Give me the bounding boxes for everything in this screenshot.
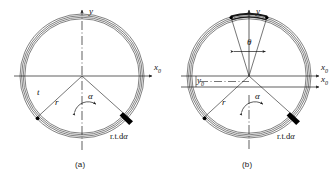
alpha-arc-b <box>242 102 264 113</box>
element-label-a-alpha: α <box>123 131 127 141</box>
radius-label-a: r <box>55 97 59 107</box>
y-axis-label-b: y <box>256 6 260 16</box>
theta-label-b: θ <box>247 37 251 47</box>
thickness-label-a: t <box>37 87 40 97</box>
x-axis-upper-label-b: x0 <box>321 62 328 74</box>
y-axis-label-a: y <box>89 6 93 16</box>
y-offset-label-b-sub: 0 <box>201 81 204 87</box>
alpha-arc-a <box>75 102 97 113</box>
theta-line-right-b <box>249 17 267 76</box>
x-axis-upper-label-b-sub: 0 <box>325 68 328 74</box>
caption-b: (b) <box>242 160 252 169</box>
x-axis-label-a-sub: 0 <box>158 68 161 74</box>
panel-a <box>14 10 152 150</box>
element-label-b-alpha: α <box>290 131 294 141</box>
element-label-b: r.t.dα <box>277 131 295 141</box>
node-marker-b-left <box>203 116 207 120</box>
element-label-b-text: r.t.d <box>277 131 290 141</box>
x-axis-lower-label-b: x0 <box>321 74 328 86</box>
alpha-label-a: α <box>88 91 93 101</box>
alpha-label-b: α <box>255 91 260 101</box>
x-axis-lower-label-b-sub: 0 <box>325 80 328 86</box>
caption-a: (a) <box>75 160 85 169</box>
element-label-a: r.t.dα <box>110 131 128 141</box>
y-offset-label-b: y0 <box>197 75 204 87</box>
figure-canvas <box>0 0 335 177</box>
element-label-a-text: r.t.d <box>110 131 123 141</box>
radius-line-left-a <box>37 76 82 118</box>
node-marker-b-theta-left <box>230 16 233 19</box>
node-marker-b-theta-right <box>265 16 268 19</box>
radius-label-b: r <box>222 97 226 107</box>
radius-line-left-b <box>204 76 249 118</box>
x-axis-label-a: x0 <box>154 62 161 74</box>
node-marker-a-left <box>36 116 40 120</box>
